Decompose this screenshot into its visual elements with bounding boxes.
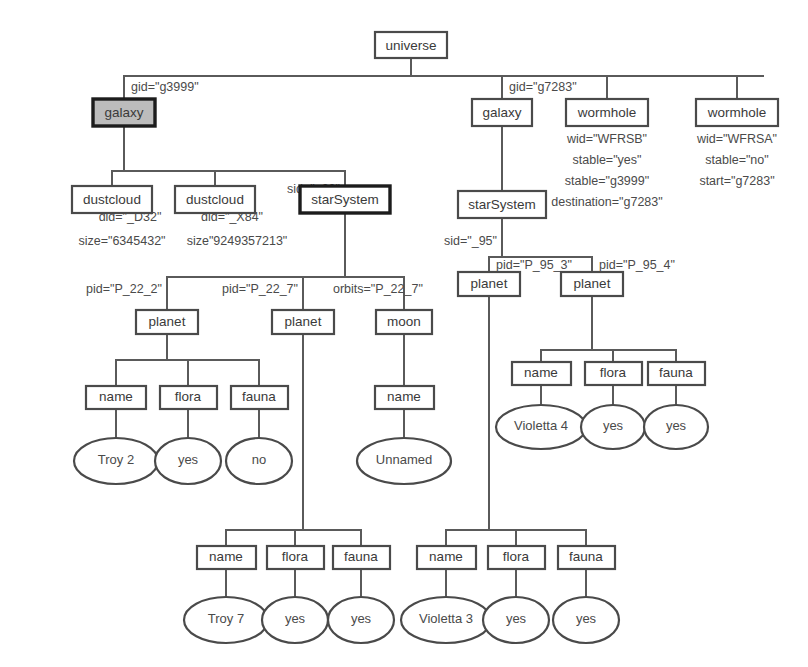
- tree-canvas: gid="g3999" gid="g7283" sid="_22" sid="_…: [0, 0, 808, 667]
- node-name-1-label: name: [99, 389, 133, 404]
- node-flora-95-4[interactable]: flora: [585, 362, 642, 385]
- edge-layer: [112, 58, 763, 597]
- attr-wh-b-wid: wid="WFRSB": [566, 132, 647, 146]
- node-planet-95-3-label: planet: [471, 276, 508, 291]
- leaf-flora953-label: yes: [506, 611, 527, 626]
- leaf-troy2[interactable]: Troy 2: [74, 438, 158, 484]
- node-galaxy-left[interactable]: galaxy: [93, 99, 155, 126]
- leaf-flora227-label: yes: [285, 611, 306, 626]
- node-galaxy-left-label: galaxy: [104, 105, 143, 120]
- leaf-flora954-label: yes: [603, 418, 624, 433]
- attr-wh-b-start: stable="g3999": [565, 174, 649, 188]
- attr-wh-a-start: start="g7283": [699, 174, 774, 188]
- leaf-fauna954[interactable]: yes: [644, 405, 708, 449]
- node-planet-22-7-label: planet: [285, 314, 322, 329]
- node-planet-22-7[interactable]: planet: [272, 310, 334, 334]
- leaf-fauna227-label: yes: [351, 611, 372, 626]
- leaf-violetta3-label: Violetta 3: [419, 611, 473, 626]
- leaf-flora1[interactable]: yes: [155, 438, 221, 484]
- node-flora-22-7[interactable]: flora: [267, 546, 324, 569]
- node-name-95-4-label: name: [524, 365, 558, 380]
- node-starsystem-95[interactable]: starSystem: [458, 191, 546, 218]
- node-fauna-95-3[interactable]: fauna: [558, 546, 615, 569]
- attr-size-x84: size"9249357213": [187, 234, 288, 248]
- attr-gid-g7283: gid="g7283": [509, 80, 577, 94]
- node-starsystem-95-label: starSystem: [468, 197, 536, 212]
- node-name-95-3[interactable]: name: [417, 546, 476, 569]
- leaf-fauna953[interactable]: yes: [553, 597, 619, 643]
- leaf-troy2-label: Troy 2: [98, 452, 134, 467]
- node-name-95-4[interactable]: name: [512, 362, 571, 385]
- node-fauna-95-4-label: fauna: [659, 365, 693, 380]
- leaf-fauna1[interactable]: no: [226, 438, 292, 484]
- node-universe-label: universe: [385, 38, 436, 53]
- node-wormhole-b[interactable]: wormhole: [566, 99, 648, 126]
- node-flora-1-label: flora: [175, 389, 202, 404]
- node-galaxy-right[interactable]: galaxy: [472, 99, 532, 126]
- leaf-violetta4-label: Violetta 4: [514, 418, 568, 433]
- attr-wh-a-wid: wid="WFRSA": [696, 132, 777, 146]
- leaf-troy7[interactable]: Troy 7: [184, 597, 268, 643]
- leaf-flora953[interactable]: yes: [483, 597, 549, 643]
- node-flora-22-7-label: flora: [282, 549, 309, 564]
- node-planet-95-4-label: planet: [574, 276, 611, 291]
- leaf-flora1-label: yes: [178, 452, 199, 467]
- node-universe[interactable]: universe: [375, 32, 447, 58]
- leaf-violetta4[interactable]: Violetta 4: [496, 405, 586, 449]
- leaf-fauna953-label: yes: [576, 611, 597, 626]
- node-planet-22-2-label: planet: [149, 314, 186, 329]
- attr-orbits-22-7: orbits="P_22_7": [333, 282, 423, 296]
- leaf-fauna227[interactable]: yes: [328, 597, 394, 643]
- attr-gid-g3999: gid="g3999": [131, 80, 199, 94]
- node-wormhole-b-label: wormhole: [577, 105, 637, 120]
- node-fauna-95-3-label: fauna: [569, 549, 603, 564]
- attr-pid-22-7: pid="P_22_7": [222, 282, 298, 296]
- node-galaxy-right-label: galaxy: [482, 105, 521, 120]
- xml-tree-diagram: gid="g3999" gid="g7283" sid="_22" sid="_…: [0, 0, 808, 667]
- attr-pid-95-3: pid="P_95_3": [496, 258, 572, 272]
- node-flora-95-3[interactable]: flora: [488, 546, 545, 569]
- node-name-1[interactable]: name: [86, 386, 146, 409]
- leaf-violetta3[interactable]: Violetta 3: [401, 597, 491, 643]
- node-planet-95-3[interactable]: planet: [458, 272, 520, 296]
- attr-pid-22-2: pid="P_22_2": [86, 282, 162, 296]
- node-dustcloud-1-label: dustcloud: [83, 192, 141, 207]
- node-planet-95-4[interactable]: planet: [561, 272, 623, 296]
- node-flora-1[interactable]: flora: [160, 386, 217, 409]
- node-moon-22-7-label: moon: [387, 314, 421, 329]
- node-starsystem-22-label: starSystem: [311, 192, 379, 207]
- attr-wh-a-stable: stable="no": [705, 153, 768, 167]
- leaf-fauna954-label: yes: [666, 418, 687, 433]
- node-fauna-95-4[interactable]: fauna: [648, 362, 705, 385]
- node-wormhole-a[interactable]: wormhole: [696, 99, 778, 126]
- attr-wh-b-destination: destination="g7283": [551, 195, 662, 209]
- node-name-moon[interactable]: name: [375, 386, 434, 409]
- leaf-flora954[interactable]: yes: [581, 405, 645, 449]
- node-fauna-22-7[interactable]: fauna: [333, 546, 390, 569]
- node-dustcloud-2[interactable]: dustcloud: [175, 186, 255, 213]
- attr-pid-95-4: pid="P_95_4": [599, 258, 675, 272]
- leaf-troy7-label: Troy 7: [208, 611, 244, 626]
- node-dustcloud-1[interactable]: dustcloud: [72, 186, 152, 213]
- node-name-moon-label: name: [387, 389, 421, 404]
- leaf-unnamed[interactable]: Unnamed: [357, 438, 451, 484]
- node-name-22-7-label: name: [209, 549, 243, 564]
- node-fauna-1[interactable]: fauna: [231, 386, 288, 409]
- node-moon-22-7[interactable]: moon: [376, 310, 432, 334]
- node-fauna-22-7-label: fauna: [344, 549, 378, 564]
- node-name-95-3-label: name: [429, 549, 463, 564]
- node-flora-95-4-label: flora: [600, 365, 627, 380]
- attr-sid-95: sid="_95": [444, 234, 497, 248]
- node-starsystem-22[interactable]: starSystem: [300, 186, 390, 213]
- leaf-layer: Troy 2 yes no Unnamed Violetta 4 yes yes: [74, 405, 708, 643]
- attr-size-d32: size="6345432": [78, 234, 165, 248]
- leaf-fauna1-label: no: [252, 452, 266, 467]
- node-planet-22-2[interactable]: planet: [136, 310, 198, 334]
- node-name-22-7[interactable]: name: [197, 546, 256, 569]
- node-flora-95-3-label: flora: [503, 549, 530, 564]
- leaf-flora227[interactable]: yes: [262, 597, 328, 643]
- node-layer: universe galaxy galaxy wormhole wormhole…: [72, 32, 778, 569]
- node-fauna-1-label: fauna: [242, 389, 276, 404]
- node-wormhole-a-label: wormhole: [707, 105, 767, 120]
- leaf-unnamed-label: Unnamed: [376, 452, 432, 467]
